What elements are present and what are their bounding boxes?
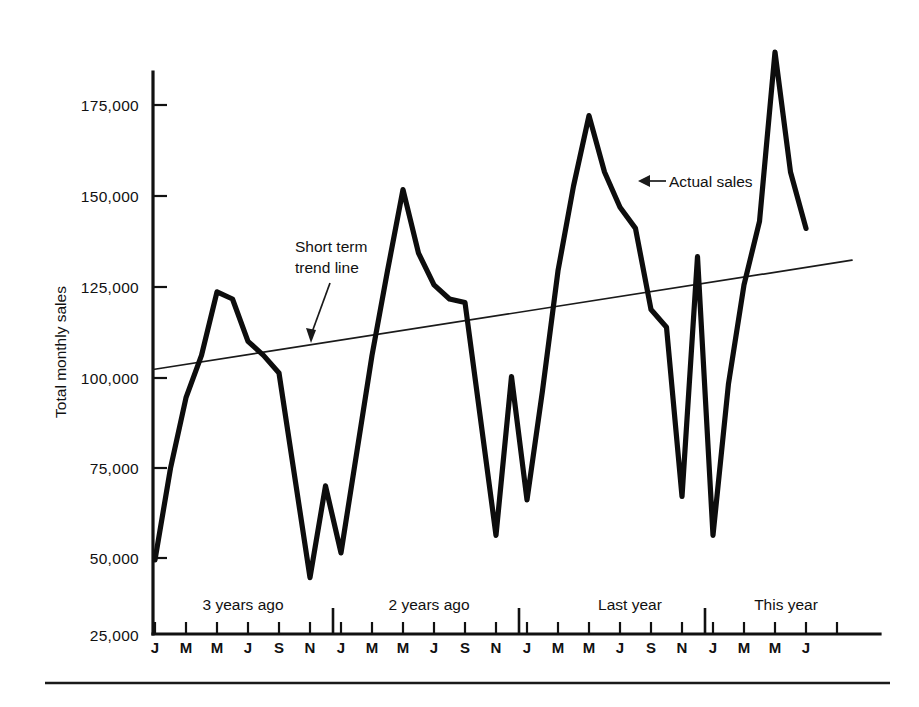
y-tick-label-25000: 25,000	[90, 627, 139, 644]
x-tick-label-18: J	[709, 639, 717, 656]
actual-sales-line	[155, 52, 806, 578]
x-tick-label-4: S	[274, 639, 284, 656]
x-tick-label-19: M	[738, 639, 751, 656]
x-tick-label-21: J	[802, 639, 810, 656]
trend-annotation-arrowhead-icon	[306, 328, 316, 343]
y-axis-title-label: Total monthly sales	[52, 286, 69, 418]
period-label-last-year: Last year	[598, 596, 662, 613]
y-tick-label-175000: 175,000	[81, 97, 139, 114]
x-tick-label-6: J	[337, 639, 345, 656]
x-axis-tick-labels: J M M J S N J M M J S N J M M J S N J M …	[151, 639, 810, 656]
y-tick-label-150000: 150,000	[81, 188, 139, 205]
sales-trend-chart: Total monthly sales 175,000 150,000 125,…	[0, 0, 919, 707]
trend-annotation-line2: trend line	[295, 259, 359, 276]
period-label-this-year: This year	[754, 596, 818, 613]
y-tick-label-125000: 125,000	[81, 279, 139, 296]
trend-line-annotation: Short term trend line	[295, 238, 367, 343]
y-tick-label-100000: 100,000	[81, 370, 139, 387]
y-tick-label-50000: 50,000	[90, 550, 139, 567]
period-labels: 3 years ago 2 years ago Last year This y…	[203, 596, 818, 613]
y-tick-label-75000: 75,000	[90, 460, 139, 477]
y-axis-tick-labels: 175,000 150,000 125,000 100,000 75,000 5…	[81, 97, 139, 644]
x-tick-label-10: S	[460, 639, 470, 656]
x-tick-label-9: J	[430, 639, 438, 656]
x-tick-label-16: S	[646, 639, 656, 656]
trend-annotation-line1: Short term	[295, 238, 367, 255]
x-tick-label-3: J	[244, 639, 252, 656]
x-tick-label-14: M	[583, 639, 596, 656]
chart-svg: Total monthly sales 175,000 150,000 125,…	[0, 0, 919, 707]
x-tick-label-1: M	[180, 639, 193, 656]
x-tick-label-7: M	[366, 639, 379, 656]
x-tick-label-17: N	[677, 639, 688, 656]
x-tick-label-8: M	[397, 639, 410, 656]
x-tick-label-12: J	[523, 639, 531, 656]
actual-sales-annotation-arrowhead-icon	[638, 175, 650, 187]
y-axis-title: Total monthly sales	[52, 286, 69, 418]
period-label-3-years-ago: 3 years ago	[203, 596, 284, 613]
x-tick-label-0: J	[151, 639, 159, 656]
actual-sales-annotation-label: Actual sales	[669, 173, 753, 190]
trend-annotation-leader	[311, 283, 330, 335]
period-label-2-years-ago: 2 years ago	[389, 596, 470, 613]
x-tick-label-5: N	[305, 639, 316, 656]
x-tick-label-11: N	[491, 639, 502, 656]
x-tick-label-13: M	[552, 639, 565, 656]
x-tick-label-2: M	[211, 639, 224, 656]
x-tick-label-20: M	[769, 639, 782, 656]
actual-sales-annotation: Actual sales	[638, 173, 753, 190]
x-tick-label-15: J	[616, 639, 624, 656]
